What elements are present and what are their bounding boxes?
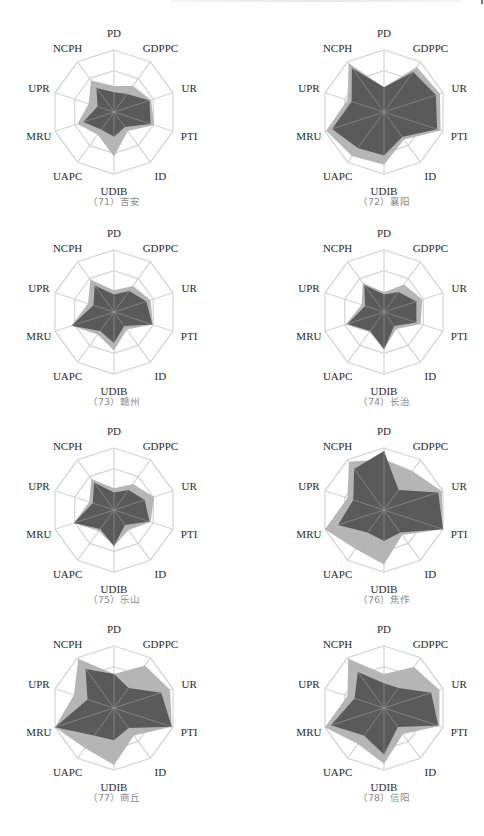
axis-label-uapc: UAPC [53, 370, 82, 382]
axis-label-uapc: UAPC [323, 370, 352, 382]
axis-label-gdppc: GDPPC [143, 638, 178, 650]
chart-caption: （78）信阳 [358, 792, 410, 803]
axis-label-pd: PD [377, 623, 391, 635]
axis-label-upr: UPR [28, 82, 50, 94]
radar-chart-grid: PDGDPPCURPTIIDUDIBUAPCMRUUPRNCPH（71）吉安PD… [0, 0, 484, 836]
axis-label-id: ID [155, 766, 167, 778]
axis-label-pti: PTI [451, 726, 468, 738]
radar-chart: PDGDPPCURPTIIDUDIBUAPCMRUUPRNCPH（72）襄阳 [296, 27, 467, 207]
radar-chart: PDGDPPCURPTIIDUDIBUAPCMRUUPRNCPH（77）商丘 [26, 623, 197, 803]
axis-label-uapc: UAPC [53, 766, 82, 778]
axis-label-ncph: NCPH [53, 638, 82, 650]
axis-label-id: ID [155, 370, 167, 382]
axis-label-gdppc: GDPPC [143, 440, 178, 452]
axis-label-id: ID [425, 568, 437, 580]
axis-label-id: ID [425, 170, 437, 182]
axis-label-pd: PD [107, 425, 121, 437]
axis-label-ncph: NCPH [323, 42, 352, 54]
axis-label-uapc: UAPC [323, 170, 352, 182]
axis-label-ncph: NCPH [53, 440, 82, 452]
axis-label-ur: UR [451, 82, 467, 94]
axis-label-upr: UPR [298, 480, 320, 492]
radar-chart: PDGDPPCURPTIIDUDIBUAPCMRUUPRNCPH（73）赣州 [26, 227, 197, 407]
axis-label-ncph: NCPH [323, 638, 352, 650]
axis-label-pd: PD [107, 623, 121, 635]
axis-label-upr: UPR [298, 678, 320, 690]
axis-label-ur: UR [181, 480, 197, 492]
axis-label-gdppc: GDPPC [143, 42, 178, 54]
axis-label-id: ID [155, 568, 167, 580]
axis-label-upr: UPR [28, 282, 50, 294]
radar-chart: PDGDPPCURPTIIDUDIBUAPCMRUUPRNCPH（76）焦作 [296, 425, 467, 605]
chart-caption: （72）襄阳 [358, 196, 410, 207]
chart-caption: （77）商丘 [88, 792, 140, 803]
radar-chart: PDGDPPCURPTIIDUDIBUAPCMRUUPRNCPH（71）吉安 [26, 27, 197, 207]
axis-label-id: ID [425, 766, 437, 778]
chart-caption: （76）焦作 [358, 594, 410, 605]
axis-label-mru: MRU [26, 528, 51, 540]
axis-label-id: ID [425, 370, 437, 382]
axis-label-pd: PD [107, 27, 121, 39]
axis-label-pti: PTI [451, 130, 468, 142]
axis-label-pti: PTI [451, 528, 468, 540]
axis-label-ncph: NCPH [323, 242, 352, 254]
axis-label-ur: UR [451, 678, 467, 690]
axis-label-pd: PD [377, 227, 391, 239]
radar-chart: PDGDPPCURPTIIDUDIBUAPCMRUUPRNCPH（75）乐山 [26, 425, 197, 605]
axis-label-ur: UR [181, 82, 197, 94]
chart-caption: （75）乐山 [88, 594, 140, 605]
chart-caption: （74）长治 [358, 396, 410, 407]
axis-label-ncph: NCPH [323, 440, 352, 452]
axis-label-mru: MRU [296, 130, 321, 142]
axis-label-ur: UR [181, 282, 197, 294]
axis-label-pti: PTI [181, 330, 198, 342]
axis-label-upr: UPR [28, 678, 50, 690]
axis-label-uapc: UAPC [323, 568, 352, 580]
axis-label-pti: PTI [181, 726, 198, 738]
axis-label-id: ID [155, 170, 167, 182]
chart-caption: （73）赣州 [88, 396, 140, 407]
axis-label-uapc: UAPC [53, 170, 82, 182]
axis-label-ncph: NCPH [53, 42, 82, 54]
axis-label-gdppc: GDPPC [413, 242, 448, 254]
radar-chart: PDGDPPCURPTIIDUDIBUAPCMRUUPRNCPH（78）信阳 [296, 623, 467, 803]
axis-label-gdppc: GDPPC [143, 242, 178, 254]
axis-label-uapc: UAPC [53, 568, 82, 580]
axis-label-ur: UR [451, 480, 467, 492]
axis-label-gdppc: GDPPC [413, 42, 448, 54]
axis-label-mru: MRU [26, 330, 51, 342]
axis-label-pti: PTI [181, 528, 198, 540]
axis-label-mru: MRU [296, 528, 321, 540]
axis-label-mru: MRU [296, 330, 321, 342]
axis-label-upr: UPR [298, 282, 320, 294]
axis-label-mru: MRU [296, 726, 321, 738]
axis-label-ur: UR [181, 678, 197, 690]
axis-label-pti: PTI [181, 130, 198, 142]
axis-label-pd: PD [377, 425, 391, 437]
axis-label-uapc: UAPC [323, 766, 352, 778]
axis-label-gdppc: GDPPC [413, 638, 448, 650]
axis-label-mru: MRU [26, 726, 51, 738]
axis-label-pti: PTI [451, 330, 468, 342]
axis-label-pd: PD [377, 27, 391, 39]
chart-caption: （71）吉安 [88, 196, 140, 207]
axis-label-ncph: NCPH [53, 242, 82, 254]
radar-chart: PDGDPPCURPTIIDUDIBUAPCMRUUPRNCPH（74）长治 [296, 227, 467, 407]
axis-label-mru: MRU [26, 130, 51, 142]
axis-label-pd: PD [107, 227, 121, 239]
axis-label-upr: UPR [298, 82, 320, 94]
axis-label-gdppc: GDPPC [413, 440, 448, 452]
axis-label-ur: UR [451, 282, 467, 294]
axis-label-upr: UPR [28, 480, 50, 492]
